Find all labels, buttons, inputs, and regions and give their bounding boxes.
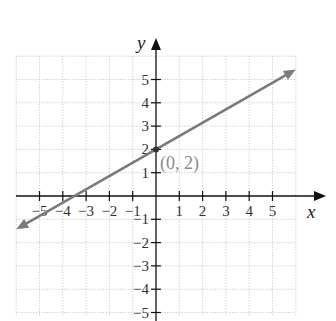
- coordinate-plane: −5−4−3−2−112345−5−4−3−2−112345 x y (0, 2…: [0, 0, 336, 321]
- x-axis-label: x: [306, 201, 316, 222]
- y-tick-label: −5: [133, 305, 149, 321]
- point-label: (0, 2): [160, 153, 199, 174]
- y-axis-label: y: [135, 32, 146, 53]
- x-tick-label: 4: [245, 203, 253, 219]
- y-tick-label: −3: [133, 258, 149, 274]
- y-tick-label: 4: [142, 95, 150, 111]
- y-tick-label: 3: [142, 118, 150, 134]
- x-axis-arrow-icon: [314, 191, 326, 201]
- x-tick-label: 5: [269, 203, 277, 219]
- x-tick-label: −3: [78, 203, 94, 219]
- x-tick-label: 3: [222, 203, 230, 219]
- y-tick-label: −1: [133, 211, 149, 227]
- x-tick-label: 1: [176, 203, 184, 219]
- x-tick-label: −2: [101, 203, 117, 219]
- y-tick-label: −4: [133, 281, 149, 297]
- y-tick-label: −2: [133, 235, 149, 251]
- y-tick-label: 1: [142, 165, 150, 181]
- x-tick-label: 2: [199, 203, 207, 219]
- y-axis-arrow-icon: [151, 38, 161, 50]
- intercept-point: [153, 146, 159, 152]
- y-tick-label: 5: [142, 72, 150, 88]
